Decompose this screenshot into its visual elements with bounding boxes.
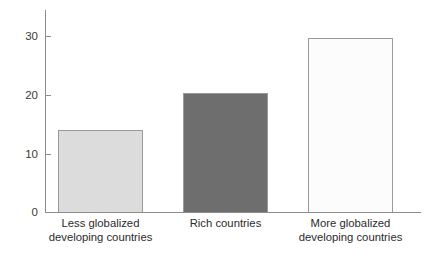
y-tick-label-30: 30 [8, 30, 38, 42]
bar-less-globalized-developing-countries[interactable] [58, 130, 143, 212]
y-axis-line [45, 10, 46, 213]
bar-more-globalized-developing-countries[interactable] [308, 38, 393, 212]
y-tick-20 [45, 95, 51, 96]
x-axis-line [45, 212, 421, 213]
y-tick-label-0: 0 [8, 206, 38, 218]
y-tick-30 [45, 36, 51, 37]
bar-rich-countries[interactable] [183, 93, 268, 212]
x-category-label-2: More globalized developing countries [295, 217, 406, 244]
y-tick-label-10: 10 [8, 148, 38, 160]
x-category-label-0: Less globalized developing countries [45, 217, 156, 244]
bar-chart: 30 20 10 0 Less globalized developing co… [0, 0, 426, 258]
y-tick-10 [45, 154, 51, 155]
x-category-label-1: Rich countries [170, 217, 281, 231]
y-tick-label-20: 20 [8, 89, 38, 101]
y-tick-0 [45, 212, 51, 213]
